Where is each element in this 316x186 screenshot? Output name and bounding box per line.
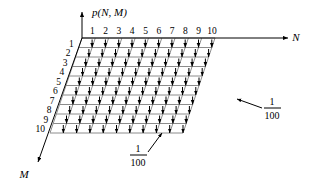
n-axis-label: N [291,31,300,43]
callout-bottom: 1 100 [130,133,162,168]
n-tick-label-10: 10 [207,26,217,36]
callout-bottom-numerator: 1 [136,143,141,154]
n-tick-label-9: 9 [196,26,201,36]
n-tick-labels: 12345678910 [90,26,217,36]
n-tick-label-5: 5 [143,26,148,36]
m-tick-label-10: 10 [36,124,46,134]
pmf-diagram: 12345678910 12345678910 p(N, M) N M 1 10… [0,0,316,186]
m-axis-line [38,38,82,162]
p-axis-label: p(N, M) [91,6,127,19]
callout-right: 1 100 [237,96,281,121]
callout-right-numerator: 1 [270,96,275,107]
axes-group [38,12,288,162]
figure-container: 12345678910 12345678910 p(N, M) N M 1 10… [0,0,316,186]
n-tick-label-2: 2 [103,26,108,36]
n-tick-label-4: 4 [130,26,135,36]
m-tick-label-4: 4 [59,67,64,77]
m-tick-label-5: 5 [56,77,61,87]
m-tick-label-8: 8 [47,105,52,115]
m-tick-label-6: 6 [53,86,58,96]
n-tick-label-7: 7 [170,26,175,36]
m-tick-label-9: 9 [43,115,48,125]
callout-right-denominator: 100 [265,110,280,121]
m-tick-label-7: 7 [50,96,55,106]
n-tick-label-6: 6 [156,26,161,36]
n-tick-label-3: 3 [117,26,122,36]
m-tick-label-2: 2 [66,48,71,58]
callout-bottom-denominator: 100 [131,157,146,168]
n-tick-label-1: 1 [90,26,95,36]
m-tick-label-1: 1 [69,39,74,49]
m-axis-label: M [18,168,29,180]
callout-right-leader [237,99,262,108]
m-tick-label-3: 3 [63,58,68,68]
callout-bottom-leader [148,133,162,152]
n-tick-label-8: 8 [183,26,188,36]
pmf-stem-arrows [63,40,212,134]
